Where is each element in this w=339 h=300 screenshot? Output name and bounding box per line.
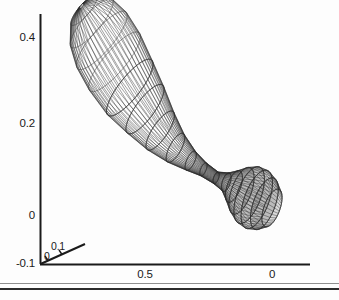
plot-canvas [0,0,339,300]
y-tick-label-0: 0.4 [4,31,35,43]
page-divider-light [0,283,339,284]
page-divider [0,288,339,290]
figure-3d-mesh-plot: 0.4 0.2 0 -0.1 0.5 0 0 0.1 [0,0,339,300]
y-tick-label-2: 0 [4,209,35,221]
x-tick-label-0: 0.5 [127,268,163,280]
y-tick-label-1: 0.2 [4,117,35,129]
mesh-line [83,0,276,190]
z-tick-label-1: 0.1 [51,240,65,252]
mesh-surface-group [70,0,282,230]
z-tick-label-0: 0 [44,250,50,262]
x-tick-label-1: 0 [256,268,288,280]
y-tick-label-3: -0.1 [1,257,35,269]
mesh-line [84,0,282,192]
mesh-line [89,32,141,92]
